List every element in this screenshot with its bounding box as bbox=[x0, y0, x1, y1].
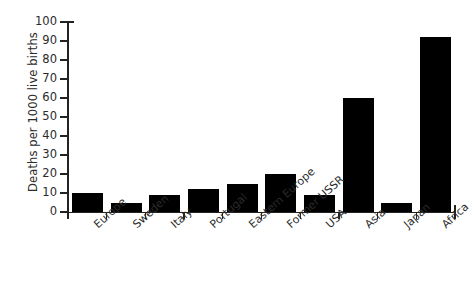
y-tick-label: 20 bbox=[31, 168, 57, 180]
x-tick-label: Japan bbox=[402, 222, 410, 231]
plot-area bbox=[68, 22, 455, 212]
y-tick-mark bbox=[60, 78, 68, 79]
x-tick-label: Italy bbox=[169, 222, 177, 231]
bar-chart-figure: Deaths per 1000 live births 010203040506… bbox=[0, 0, 475, 299]
y-tick-label: 30 bbox=[31, 149, 57, 161]
y-tick-mark bbox=[60, 173, 68, 174]
y-tick-mark bbox=[60, 97, 68, 98]
y-tick-mark bbox=[60, 59, 68, 60]
x-tick-label: Africa bbox=[440, 222, 448, 231]
y-tick-mark bbox=[60, 135, 68, 136]
y-tick-label: 90 bbox=[31, 35, 57, 47]
y-tick-mark bbox=[60, 40, 68, 41]
y-tick-mark bbox=[60, 116, 68, 117]
bar bbox=[72, 193, 103, 212]
y-tick-mark bbox=[60, 21, 68, 22]
y-tick-mark bbox=[60, 192, 68, 193]
x-tick-label: Sweden bbox=[131, 222, 139, 231]
bar bbox=[188, 189, 219, 212]
bar bbox=[420, 37, 451, 212]
y-tick-label: 10 bbox=[31, 187, 57, 199]
y-tick-label: 80 bbox=[31, 54, 57, 66]
y-tick-label: 40 bbox=[31, 130, 57, 142]
x-tick-mark bbox=[67, 213, 68, 219]
y-tick-label: 50 bbox=[31, 111, 57, 123]
x-tick-label: Eastern Europe bbox=[247, 222, 255, 231]
y-tick-mark bbox=[60, 154, 68, 155]
bar bbox=[381, 203, 412, 213]
y-tick-label: 60 bbox=[31, 92, 57, 104]
y-tick-label: 100 bbox=[31, 16, 57, 28]
x-tick-label: Former USSR bbox=[285, 222, 293, 231]
x-tick-label: Portugal bbox=[208, 222, 216, 231]
x-tick-label: USA bbox=[324, 222, 332, 231]
y-tick-label: 70 bbox=[31, 73, 57, 85]
bar bbox=[343, 98, 374, 212]
y-tick-label: 0 bbox=[31, 206, 57, 218]
x-tick-label: Europe bbox=[92, 222, 100, 231]
x-tick-label: Asia bbox=[363, 222, 371, 231]
